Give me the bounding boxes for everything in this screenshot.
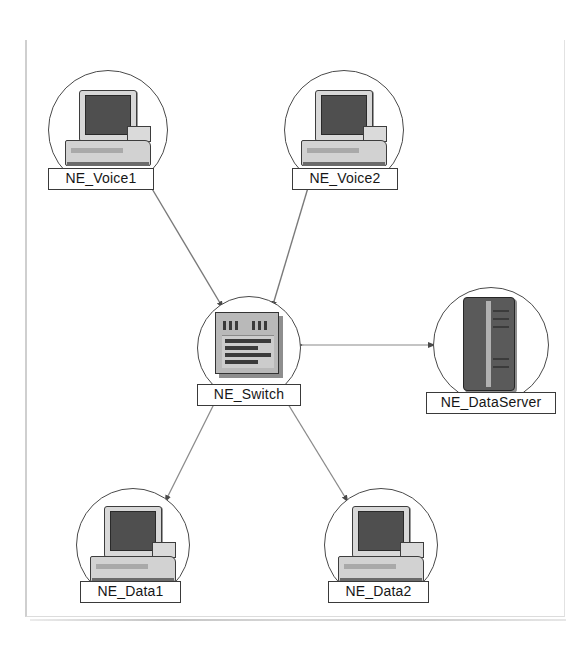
diagram-canvas: NE_Voice1 NE_Voice2 xyxy=(0,0,588,647)
server-tower-icon xyxy=(463,297,515,391)
server-slot-icon xyxy=(493,326,509,328)
network-switch-icon xyxy=(215,312,279,374)
base-shadow-icon xyxy=(303,162,385,166)
screen-icon xyxy=(321,95,367,135)
node-label[interactable]: NE_Data2 xyxy=(328,581,429,603)
server-seam-icon xyxy=(486,301,491,387)
node-ne-voice1[interactable]: NE_Voice1 xyxy=(48,70,168,190)
node-label[interactable]: NE_Voice2 xyxy=(292,168,398,190)
server-slot-icon xyxy=(493,366,509,368)
node-label[interactable]: NE_Voice1 xyxy=(48,168,154,190)
node-label[interactable]: NE_Data1 xyxy=(80,581,181,603)
keyboard-keys-icon xyxy=(344,564,396,569)
node-label[interactable]: NE_Switch xyxy=(197,384,301,406)
node-ne-data2[interactable]: NE_Data2 xyxy=(324,488,438,602)
node-label[interactable]: NE_DataServer xyxy=(426,392,556,414)
link-voice1-switch[interactable] xyxy=(148,182,223,308)
desktop-computer-icon xyxy=(338,506,424,582)
keyboard-keys-icon xyxy=(71,148,123,153)
keyboard-keys-icon xyxy=(307,148,359,153)
node-ne-data1[interactable]: NE_Data1 xyxy=(76,488,190,602)
switch-faceplate-icon xyxy=(222,335,274,368)
base-shadow-icon xyxy=(67,162,149,166)
desktop-computer-icon xyxy=(301,90,387,166)
switch-led-row-icon xyxy=(223,320,273,331)
screen-icon xyxy=(85,95,131,135)
link-voice2-switch[interactable] xyxy=(272,181,310,308)
desktop-computer-icon xyxy=(65,90,151,166)
server-slot-icon xyxy=(493,358,509,360)
server-slot-icon xyxy=(493,318,509,320)
screen-icon xyxy=(110,511,156,551)
desktop-computer-icon xyxy=(90,506,176,582)
node-ne-dataserver[interactable]: NE_DataServer xyxy=(433,287,549,403)
node-ne-voice2[interactable]: NE_Voice2 xyxy=(284,70,404,190)
screen-icon xyxy=(358,511,404,551)
server-slot-icon xyxy=(493,310,509,312)
keyboard-keys-icon xyxy=(96,564,148,569)
node-ne-switch[interactable]: NE_Switch xyxy=(197,296,301,400)
